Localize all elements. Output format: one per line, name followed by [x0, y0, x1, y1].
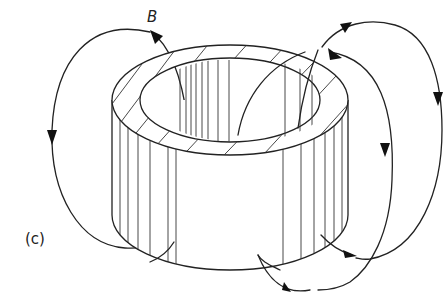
arrow-down-icon	[380, 143, 390, 157]
field-label-b: B	[147, 8, 157, 26]
diagram-canvas	[0, 0, 448, 307]
arrow-right-icon	[343, 250, 357, 258]
panel-label: (c)	[25, 230, 45, 248]
arrow-right-icon	[340, 22, 352, 33]
toroid-field-diagram: B (c)	[0, 0, 448, 307]
arrow-icon	[282, 282, 291, 292]
arrow-down-icon	[433, 92, 443, 106]
arrow-down-icon	[47, 130, 57, 145]
toroid-core	[100, 30, 370, 270]
